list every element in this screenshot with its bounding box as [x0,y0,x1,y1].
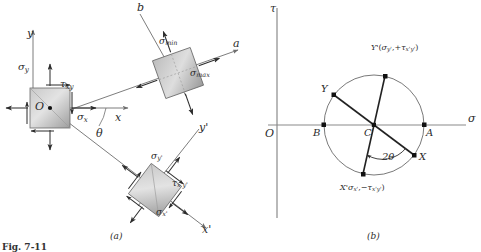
sigma-y-label: σy [18,62,29,73]
point-Y-marker [332,93,337,98]
point-A-label: A [426,128,433,138]
theta-label: θ [96,128,103,139]
tau-xy-label: τxy [60,79,74,90]
tau-x-prime-y-prime-label: τx'y' [172,179,188,189]
sigma-min-label: σmin [159,37,178,47]
point-B-label: B [313,128,320,138]
original-stress-element [6,64,96,150]
origin-label-a: O [35,101,44,112]
point-C-label: C [364,128,372,138]
sigma-x-label: σx [77,112,88,123]
point-Y-label: Y [321,84,328,94]
y-prime-axis-label: y' [199,122,208,133]
caption-panel-b: (b) [367,231,380,241]
point-X-marker [412,153,417,158]
double-angle-label: 2θ [382,152,394,162]
point-C-marker [372,123,376,127]
point-Y-prime-marker [383,74,388,79]
origin-label-b: O [265,128,274,139]
point-B-marker [322,123,327,128]
point-X-label: X [419,152,426,162]
tau-axis-label: τ [270,3,276,14]
point-Y-prime-label: Y'(σy',+τx'y') [371,44,418,53]
a-axis-label: a [233,38,240,49]
x-prime-axis-line [60,116,206,228]
a-axis-line [58,50,238,114]
point-X-prime-label: X'σx',−τx'y') [340,184,385,193]
x-prime-axis-label: x' [202,224,211,235]
theta-arc [99,108,106,126]
y-axis-label: y [27,28,33,39]
x-axis-label: x [115,112,121,123]
figure-caption-partial: Fig. 7-11 [2,242,47,252]
principal-stress-element [122,17,234,129]
point-X-prime-marker [361,172,366,177]
caption-panel-a: (a) [110,231,122,241]
sigma-axis-label: σ [468,113,476,124]
sigma-x-prime-label: σx' [156,208,168,218]
b-axis-label: b [137,2,144,13]
sigma-y-prime-label: σy' [151,152,163,162]
sigma-max-label: σmax [190,69,210,79]
